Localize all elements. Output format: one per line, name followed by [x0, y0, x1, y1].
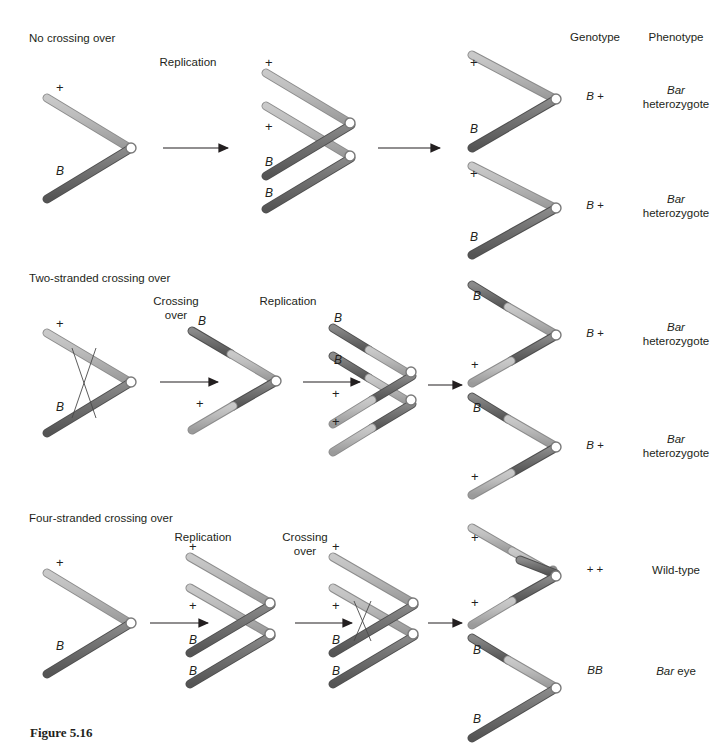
row3-allele-rep-plus-2: + [189, 598, 197, 613]
row2-product1-phenotype-line1: Bar [667, 321, 685, 333]
row2-product-2 [472, 397, 561, 495]
row3-product1-allele-plus-1: + [471, 530, 479, 545]
row1-product1-allele-b: B [470, 122, 478, 136]
row3-product2-phenotype: Bar eye [640, 664, 712, 678]
row2-allele-start-plus: + [56, 316, 64, 331]
row3-product-2 [472, 638, 561, 738]
row2-allele-rep-b-2: B [334, 353, 342, 367]
row3-allele-rep-plus-1: + [189, 539, 197, 554]
row2-product-1 [472, 285, 561, 383]
row1-product1-phenotype-line1: Bar [667, 84, 685, 96]
row3-product2-phenotype-line2: eye [677, 665, 696, 677]
row3-allele-rep-b-1: B [189, 633, 197, 647]
row2-allele-start-b: B [56, 400, 64, 414]
row2-allele-recomb-b: B [198, 314, 206, 328]
chromosome-diagram [0, 0, 713, 748]
row1-start-chromosome [47, 98, 136, 199]
row1-allele-start-b: B [56, 164, 64, 178]
row2-product2-genotype: B + [560, 439, 630, 451]
row1-allele-start-plus: + [56, 80, 64, 95]
row1-allele-rep-plus-2: + [265, 119, 273, 134]
row3-allele-cross-b-2: B [332, 664, 340, 678]
row2-start-chromosome [47, 333, 136, 433]
row3-step2-line1: Crossing [282, 531, 327, 543]
row3-product2-allele-b-2: B [473, 712, 481, 726]
row3-replicated-chromosomes [190, 557, 275, 684]
row-title-two-stranded-crossing-over: Two-stranded crossing over [29, 272, 170, 284]
row3-allele-cross-b-1: B [332, 633, 340, 647]
row3-product2-genotype: BB [560, 664, 630, 676]
row2-product1-allele-b: B [473, 289, 481, 303]
row1-product2-phenotype-line1: Bar [667, 193, 685, 205]
row2-step1-line2: over [165, 309, 187, 321]
row2-allele-rep-plus-2: + [332, 414, 340, 429]
row2-product1-genotype: B + [560, 327, 630, 339]
row2-product2-allele-plus: + [471, 469, 479, 484]
row1-product2-allele-b: B [470, 230, 478, 244]
figure-container: Genotype Phenotype No crossing over Repl… [0, 0, 713, 748]
row3-product2-allele-b-1: B [473, 643, 481, 657]
row2-recombinant-chromosome [192, 331, 281, 430]
row-title-no-crossing-over: No crossing over [29, 32, 115, 44]
row2-step1-line1: Crossing [153, 295, 198, 307]
row1-allele-rep-plus-1: + [265, 55, 273, 70]
figure-caption: Figure 5.16 [30, 725, 93, 741]
row2-product1-phenotype-line2: heterozygote [643, 335, 710, 347]
row3-allele-cross-plus-1: + [332, 539, 340, 554]
row1-allele-rep-b-2: B [265, 186, 273, 200]
row3-step-replication-label: Replication [155, 531, 251, 545]
row3-crossover-chromosomes [333, 557, 418, 684]
row-title-four-stranded-crossing-over: Four-stranded crossing over [29, 512, 173, 524]
row2-allele-recomb-plus: + [196, 396, 204, 411]
row1-product-2 [472, 166, 561, 255]
row3-product2-phenotype-line1: Bar [656, 665, 674, 677]
row2-step-crossing-over-label: Crossing over [133, 295, 219, 322]
row1-step-replication-label: Replication [133, 56, 243, 70]
row3-product-1 [472, 528, 561, 625]
row2-product2-phenotype-line2: heterozygote [643, 447, 710, 459]
row3-allele-start-plus: + [56, 555, 64, 570]
genotype-column-header: Genotype [560, 31, 630, 43]
row1-product2-allele-plus: + [470, 166, 478, 181]
row2-product1-phenotype: Bar heterozygote [640, 320, 712, 348]
row3-product1-phenotype: Wild-type [640, 563, 712, 577]
row1-replicated-chromosomes [266, 73, 355, 209]
row1-product2-phenotype-line2: heterozygote [643, 207, 710, 219]
row2-product2-allele-b: B [473, 401, 481, 415]
row1-product-1 [472, 55, 561, 148]
row2-step-replication-label: Replication [240, 295, 336, 309]
row1-product2-phenotype: Bar heterozygote [640, 192, 712, 220]
row3-step2-line2: over [294, 545, 316, 557]
row3-product1-allele-plus-2: + [471, 595, 479, 610]
row2-allele-rep-b-1: B [334, 311, 342, 325]
row1-product1-allele-plus: + [470, 55, 478, 70]
row3-start-chromosome [47, 573, 136, 674]
row3-allele-cross-plus-2: + [332, 598, 340, 613]
row1-product1-phenotype-line2: heterozygote [643, 98, 710, 110]
row3-product1-genotype: + + [560, 563, 630, 575]
phenotype-column-header: Phenotype [640, 31, 712, 43]
row1-product2-genotype: B + [560, 199, 630, 211]
row2-replicated-chromosomes [333, 328, 416, 452]
row1-product1-genotype: B + [560, 90, 630, 102]
row3-allele-rep-b-2: B [189, 664, 197, 678]
row1-product1-phenotype: Bar heterozygote [640, 83, 712, 111]
row2-product1-allele-plus: + [471, 357, 479, 372]
row2-allele-rep-plus-1: + [332, 386, 340, 401]
row1-allele-rep-b-1: B [265, 155, 273, 169]
row2-product2-phenotype: Bar heterozygote [640, 432, 712, 460]
row2-product2-phenotype-line1: Bar [667, 433, 685, 445]
row3-allele-start-b: B [56, 639, 64, 653]
